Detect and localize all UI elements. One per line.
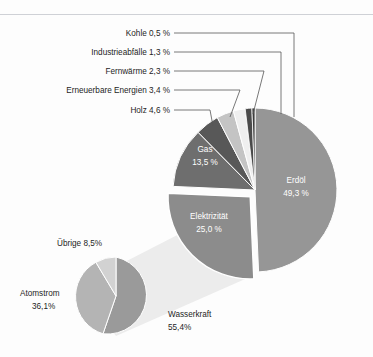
subslice-label-atomstrom-value: 36,1% [32, 302, 55, 311]
slice-label-erdoel-name: Erdöl [286, 176, 305, 185]
callout-label-kohle: Kohle 0,5 % [126, 29, 170, 38]
callout-label-erneuerbare-energien: Erneuerbare Energien 3,4 % [66, 86, 170, 95]
slice-label-elektrizitaet-name: Elektrizität [190, 212, 228, 221]
slice-label-gas-name: Gas [197, 145, 212, 154]
subslice-label-atomstrom-name: Atomstrom [20, 289, 60, 298]
callout-label-fernwaerme: Fernwärme 2,3 % [105, 67, 170, 76]
callout-label-holz: Holz 4,6 % [130, 106, 170, 115]
slice-label-elektrizitaet-value: 25,0 % [196, 225, 222, 234]
subslice-label-wasserkraft-name: Wasserkraft [168, 310, 212, 319]
slice-label-erdoel-value: 49,3 % [283, 189, 309, 198]
subslice-label-wasserkraft-value: 55,4% [168, 323, 191, 332]
pie-chart-svg: Kohle 0,5 % Industrieabfälle 1,3 % Fernw… [0, 0, 373, 357]
chart-figure: Kohle 0,5 % Industrieabfälle 1,3 % Fernw… [0, 0, 373, 357]
subslice-label-uebrige: Übrige 8,5% [57, 238, 102, 248]
callout-label-industrieabfaelle: Industrieabfälle 1,3 % [91, 48, 170, 57]
slice-label-gas-value: 13,5 % [192, 158, 218, 167]
